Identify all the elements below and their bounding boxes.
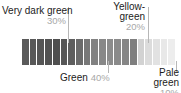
callout-green: Green40% bbox=[60, 68, 110, 84]
leader-line-yellow-green bbox=[148, 7, 149, 43]
callout-yellow-green: Yellow- green 20% bbox=[96, 2, 145, 32]
color-swatch bbox=[99, 39, 107, 65]
callout-pale-green: Pale green 10% bbox=[146, 68, 179, 93]
callout-percent-green: 40% bbox=[91, 72, 110, 83]
callout-label-green: Green bbox=[60, 72, 88, 83]
color-swatch bbox=[138, 39, 146, 65]
color-swatch bbox=[161, 39, 169, 65]
callout-percent-pale-green: 10% bbox=[146, 88, 179, 93]
color-swatch bbox=[68, 39, 76, 65]
callout-very-dark-green: Very dark green 30% bbox=[2, 6, 66, 26]
color-swatch bbox=[37, 39, 45, 65]
color-swatch bbox=[53, 39, 61, 65]
color-swatch bbox=[168, 39, 175, 65]
color-swatch bbox=[22, 39, 30, 65]
chart-container: Very dark green 30% Yellow- green 20% Gr… bbox=[0, 0, 181, 93]
color-swatch bbox=[45, 39, 53, 65]
color-swatch bbox=[145, 39, 153, 65]
color-swatch bbox=[130, 39, 138, 65]
color-swatch bbox=[76, 39, 84, 65]
color-band bbox=[22, 39, 175, 65]
color-swatch bbox=[84, 39, 92, 65]
callout-percent-very-dark-green: 30% bbox=[2, 16, 66, 26]
color-swatch bbox=[153, 39, 161, 65]
color-swatch bbox=[91, 39, 99, 65]
color-swatch bbox=[30, 39, 38, 65]
callout-percent-yellow-green: 20% bbox=[96, 22, 145, 32]
color-swatch bbox=[122, 39, 130, 65]
color-swatch bbox=[114, 39, 122, 65]
